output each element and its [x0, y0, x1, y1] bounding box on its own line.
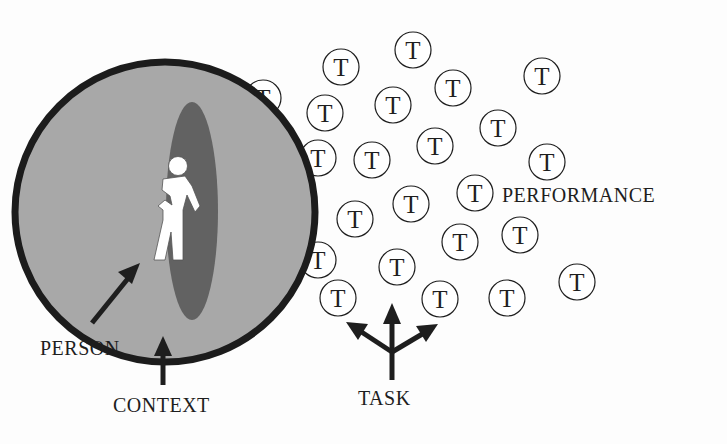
person-context-task-diagram: TTTTTTTTTTTTTTTTTTTTTTT	[0, 0, 727, 444]
task-symbol: T	[347, 206, 362, 233]
task-symbol: T	[445, 75, 460, 102]
task-circle: T	[354, 142, 390, 178]
task-circle: T	[375, 87, 411, 123]
task-symbol: T	[499, 285, 514, 312]
task-symbol: T	[512, 222, 527, 249]
task-circle: T	[395, 32, 431, 68]
task-circle: T	[417, 128, 453, 164]
task-symbol: T	[317, 100, 332, 127]
task-circle: T	[307, 95, 343, 131]
task-circle: T	[502, 217, 538, 253]
task-circle: T	[559, 264, 595, 300]
task-label: TASK	[358, 387, 411, 409]
task-circle: T	[337, 201, 373, 237]
task-trident-arrow-icon	[346, 303, 438, 380]
task-symbol: T	[310, 145, 325, 172]
task-circle: T	[457, 175, 493, 211]
task-circle: T	[489, 280, 525, 316]
task-symbol: T	[403, 191, 418, 218]
task-symbol: T	[467, 180, 482, 207]
performance-label: PERFORMANCE	[502, 184, 655, 206]
task-symbol: T	[364, 147, 379, 174]
task-symbol: T	[405, 37, 420, 64]
task-symbol: T	[569, 269, 584, 296]
task-symbol: T	[452, 229, 467, 256]
task-symbol: T	[539, 149, 554, 176]
task-circle: T	[379, 249, 415, 285]
task-circle: T	[529, 144, 565, 180]
task-circle: T	[422, 281, 458, 317]
task-circle: T	[524, 58, 560, 94]
task-circle: T	[393, 186, 429, 222]
task-symbol: T	[432, 286, 447, 313]
task-symbol: T	[385, 92, 400, 119]
task-circle: T	[320, 280, 356, 316]
person-label: PERSON	[40, 337, 120, 359]
task-circle: T	[480, 110, 516, 146]
task-circle: T	[435, 70, 471, 106]
task-symbol: T	[490, 115, 505, 142]
task-symbol: T	[427, 133, 442, 160]
task-circle: T	[442, 224, 478, 260]
task-symbol: T	[534, 63, 549, 90]
diagram-canvas: TTTTTTTTTTTTTTTTTTTTTTT	[0, 0, 727, 444]
task-symbol: T	[330, 285, 345, 312]
task-circle: T	[323, 49, 359, 85]
task-symbol: T	[389, 254, 404, 281]
context-label: CONTEXT	[113, 394, 210, 416]
task-symbol: T	[333, 54, 348, 81]
